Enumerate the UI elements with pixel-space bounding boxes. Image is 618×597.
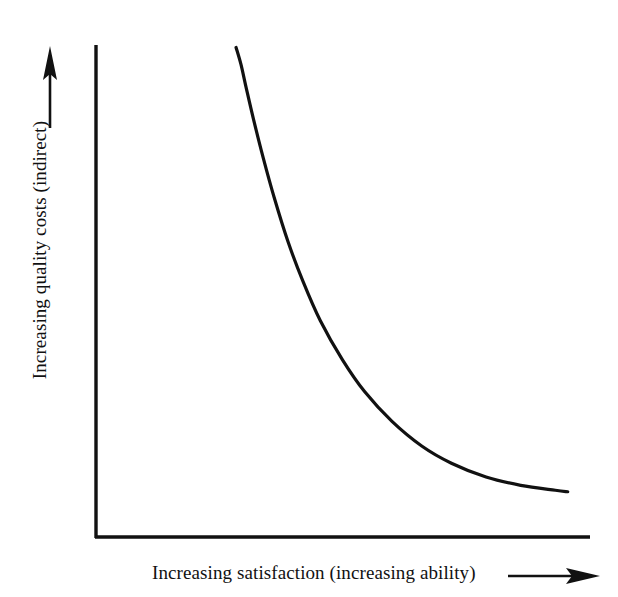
x-axis-label-text: Increasing satisfaction (increasing abil… xyxy=(152,562,476,584)
figure-root: Increasing quality costs (indirect) Incr… xyxy=(0,0,618,597)
chart-canvas xyxy=(0,0,618,597)
